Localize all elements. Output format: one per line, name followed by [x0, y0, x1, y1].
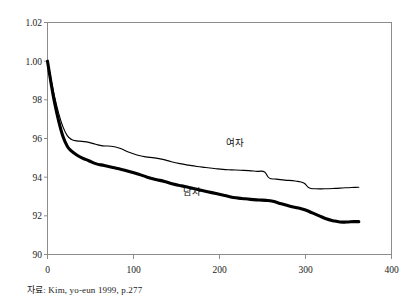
series-annotation-label: 남자 [183, 186, 201, 197]
survival-curve-chart: 90929496981.001.02 0100200300400 여자남자 [0, 0, 419, 307]
y-axis-tick-label: 94 [33, 173, 43, 183]
source-caption: 자료: Kim, yo-eun 1999, p.277 [27, 283, 142, 296]
y-axis-tick-label: 1.00 [25, 57, 42, 67]
x-axis-tick-label: 200 [212, 265, 227, 275]
y-axis-tick-label: 96 [33, 134, 43, 144]
x-axis-tick-label: 100 [126, 265, 141, 275]
chart-background [0, 0, 419, 307]
y-axis-tick-label: 1.02 [25, 18, 42, 28]
series-annotation-label: 여자 [226, 137, 244, 148]
y-axis-tick-label: 92 [33, 211, 43, 221]
y-axis-tick-label: 98 [33, 95, 43, 105]
x-axis-tick-label: 0 [45, 265, 50, 275]
y-axis-tick-label: 90 [33, 250, 43, 260]
x-axis-tick-label: 400 [384, 265, 399, 275]
x-axis-tick-label: 300 [298, 265, 313, 275]
figure-root: 90929496981.001.02 0100200300400 여자남자 자료… [0, 0, 419, 307]
